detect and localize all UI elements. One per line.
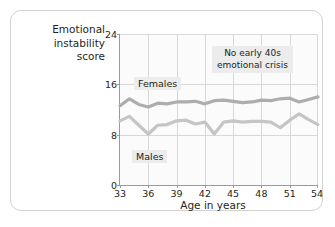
chart-plot-area: 24 16 8 0 33 36 39 42 45 48 51 54 (119, 34, 318, 186)
x-tick-label-39: 39 (171, 188, 183, 199)
y-tick-label-16: 16 (105, 79, 117, 90)
series-line-females (120, 97, 318, 107)
series-label-males: Males (132, 150, 167, 163)
y-axis-title-line-2: instability (23, 37, 105, 51)
chart-plot-wrapper: 24 16 8 0 33 36 39 42 45 48 51 54 (109, 23, 317, 211)
annotation-line-1: No early 40s (217, 48, 288, 60)
x-tick-label-42: 42 (199, 188, 211, 199)
y-axis-title-line-3: score (23, 50, 105, 64)
x-tick-label-33: 33 (114, 188, 126, 199)
x-axis-title: Age in years (109, 199, 317, 211)
annotation-no-early-40s-crisis: No early 40s emotional crisis (212, 46, 293, 73)
y-tick-label-8: 8 (111, 129, 117, 140)
series-line-males (120, 114, 318, 134)
y-axis-title-line-1: Emotional (23, 23, 105, 37)
annotation-line-2: emotional crisis (217, 60, 288, 72)
x-tick-label-51: 51 (284, 188, 296, 199)
x-tick-label-54: 54 (311, 188, 323, 199)
x-tick-label-45: 45 (227, 188, 239, 199)
series-label-females: Females (134, 77, 181, 90)
x-tick-label-36: 36 (142, 188, 154, 199)
y-axis-title: Emotional instability score (23, 23, 105, 64)
figure-card: Emotional instability score 24 16 8 (10, 10, 323, 211)
y-tick-label-24: 24 (105, 29, 117, 40)
x-tick-label-48: 48 (255, 188, 267, 199)
